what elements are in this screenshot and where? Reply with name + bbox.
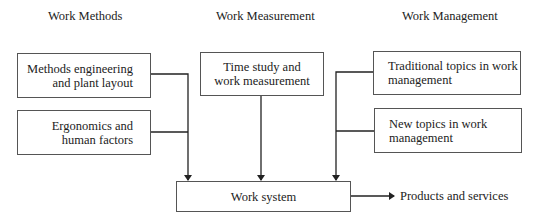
box-ergonomics: Ergonomics and human factors	[17, 110, 151, 155]
box-traditional-topics-line1: Traditional topics in work	[388, 59, 518, 73]
box-time-study-line2: work measurement	[214, 74, 309, 88]
box-new-topics: New topics in work management	[374, 108, 522, 153]
box-time-study: Time study and work measurement	[200, 52, 324, 96]
box-methods-engineering: Methods engineering and plant layout	[17, 53, 151, 98]
box-traditional-topics-line2: management	[388, 73, 518, 87]
box-work-system: Work system	[176, 181, 351, 212]
box-ergonomics-line2: human factors	[52, 133, 133, 147]
box-methods-engineering-line2: and plant layout	[27, 76, 133, 90]
box-time-study-line1: Time study and	[214, 60, 309, 74]
output-products-services: Products and services	[400, 189, 508, 204]
box-new-topics-line1: New topics in work	[389, 117, 487, 131]
box-methods-engineering-line1: Methods engineering	[27, 62, 133, 76]
box-ergonomics-line1: Ergonomics and	[52, 119, 133, 133]
box-work-system-label: Work system	[231, 190, 296, 204]
box-new-topics-line2: management	[389, 131, 487, 145]
box-traditional-topics: Traditional topics in work management	[373, 51, 521, 95]
